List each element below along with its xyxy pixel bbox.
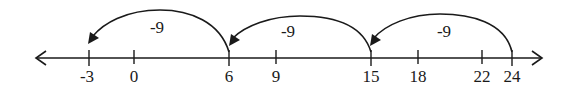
tick-label: 18	[410, 67, 427, 86]
tick-label: 22	[474, 67, 491, 86]
tick-label: 24	[504, 67, 522, 86]
tick-label: 15	[363, 67, 380, 86]
jump-label: -9	[150, 18, 164, 37]
arrowhead-icon	[88, 32, 99, 44]
tick-label: 6	[225, 67, 234, 86]
tick-labels: -3 0 6 9 15 18 22 24	[80, 67, 521, 86]
jump-arrowheads	[88, 32, 381, 46]
jump-arc-15-to-6	[233, 16, 371, 52]
number-line-axis	[36, 51, 542, 65]
jump-labels: -9 -9 -9	[150, 18, 451, 41]
tick-label: -3	[80, 67, 94, 86]
jump-label: -9	[437, 22, 451, 41]
tick-label: 9	[272, 67, 281, 86]
tick-label: 0	[130, 67, 139, 86]
jump-label: -9	[281, 22, 295, 41]
number-line-diagram: -3 0 6 9 15 18 22 24 -9 -9 -9	[0, 0, 576, 92]
